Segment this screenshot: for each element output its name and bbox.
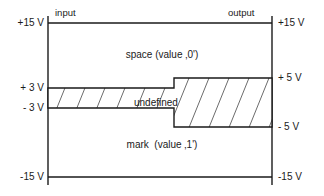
axis-label-left-plus15: +15 V xyxy=(2,18,44,28)
column-header-input: input xyxy=(55,8,76,18)
axis-label-right-minus5: - 5 V xyxy=(278,122,299,132)
region-label-undefined: undefined xyxy=(134,98,178,108)
axis-label-right-plus15: +15 V xyxy=(278,18,304,28)
region-label-space: space (value ‚0') xyxy=(0,50,324,60)
axis-label-right-plus5: + 5 V xyxy=(278,73,302,83)
axis-label-left-plus3: + 3 V xyxy=(2,83,44,93)
axis-label-right-minus15: -15 V xyxy=(278,172,302,182)
axis-label-left-minus3: - 3 V xyxy=(2,103,44,113)
axis-label-left-minus15: -15 V xyxy=(2,172,44,182)
region-label-mark: mark (value ‚1') xyxy=(0,140,324,150)
column-header-output: output xyxy=(228,8,254,18)
